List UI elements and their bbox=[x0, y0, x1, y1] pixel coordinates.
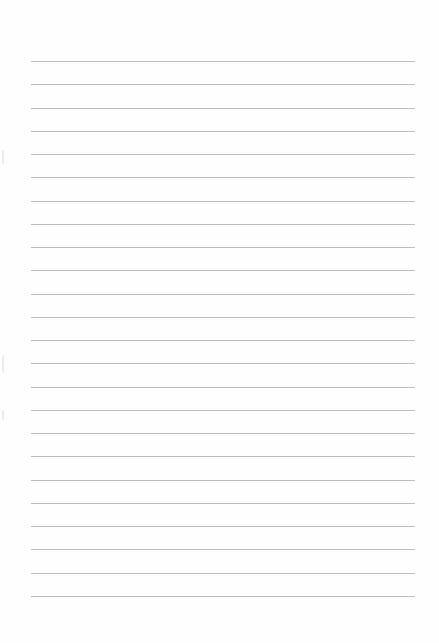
ruled-line bbox=[31, 549, 415, 550]
ruled-line bbox=[31, 456, 415, 457]
ruled-line bbox=[31, 596, 415, 597]
ruled-line bbox=[31, 270, 415, 271]
ruled-line bbox=[31, 177, 415, 178]
scan-smudge bbox=[2, 150, 4, 164]
ruled-line bbox=[31, 294, 415, 295]
ruled-line bbox=[31, 526, 415, 527]
ruled-line bbox=[31, 317, 415, 318]
ruled-line bbox=[31, 247, 415, 248]
ruled-line bbox=[31, 340, 415, 341]
ruled-line bbox=[31, 410, 415, 411]
ruled-line bbox=[31, 573, 415, 574]
ruled-line bbox=[31, 131, 415, 132]
ruled-line bbox=[31, 480, 415, 481]
ruled-line bbox=[31, 61, 415, 62]
ruled-line bbox=[31, 154, 415, 155]
ruled-line bbox=[31, 503, 415, 504]
ruled-line bbox=[31, 201, 415, 202]
ruled-line bbox=[31, 387, 415, 388]
lined-paper-page bbox=[0, 0, 439, 643]
scan-smudge bbox=[2, 355, 4, 373]
ruled-line bbox=[31, 433, 415, 434]
ruled-line bbox=[31, 224, 415, 225]
ruled-line bbox=[31, 363, 415, 364]
ruled-line bbox=[31, 84, 415, 85]
scan-smudge bbox=[2, 410, 4, 420]
ruled-line bbox=[31, 108, 415, 109]
